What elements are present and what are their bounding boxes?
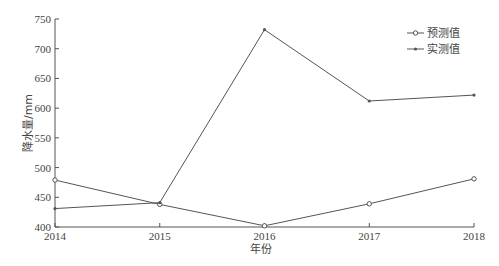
y-tick-label: 750	[35, 13, 52, 25]
y-tick-label: 650	[35, 72, 52, 84]
open-circle-marker	[53, 178, 57, 182]
open-circle-marker	[472, 177, 476, 181]
series-line-实测值	[55, 30, 474, 209]
line-chart: 400450500550600650700750 201420152016201…	[0, 0, 499, 266]
y-tick-label: 700	[35, 43, 52, 55]
legend: 预测值实测值	[407, 27, 460, 56]
x-tick-label: 2014	[44, 230, 67, 242]
y-axis-title: 降水量/mm	[21, 94, 35, 152]
x-tick-label: 2016	[254, 230, 277, 242]
x-tick-label: 2017	[358, 230, 381, 242]
legend-label: 预测值	[427, 27, 460, 40]
legend-filled-dot-icon	[414, 47, 417, 50]
x-tick-label: 2015	[149, 230, 172, 242]
open-circle-marker	[367, 202, 371, 206]
y-tick-label: 600	[35, 102, 52, 114]
y-tick-label: 450	[35, 191, 52, 203]
open-circle-marker	[262, 224, 266, 228]
filled-dot-marker	[158, 201, 161, 204]
y-tick-label: 550	[35, 132, 52, 144]
y-tick-label: 500	[35, 162, 52, 174]
legend-open-circle-icon	[413, 31, 417, 35]
data-series	[53, 28, 476, 228]
legend-label: 实测值	[427, 42, 460, 56]
filled-dot-marker	[53, 207, 56, 210]
filled-dot-marker	[368, 99, 371, 102]
x-tick-label: 2018	[463, 230, 486, 242]
series-line-预测值	[55, 179, 474, 226]
filled-dot-marker	[263, 28, 266, 31]
axes	[55, 19, 474, 227]
x-axis-title: 年份	[250, 242, 272, 256]
filled-dot-marker	[472, 93, 475, 96]
